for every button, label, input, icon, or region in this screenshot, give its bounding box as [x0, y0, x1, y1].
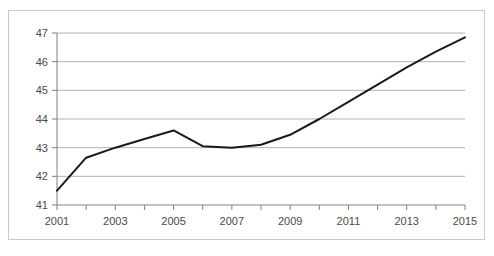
x-axis-tick-label: 2003: [103, 215, 127, 227]
x-axis-tick-label: 2009: [278, 215, 302, 227]
x-axis-ticks-group: [57, 205, 465, 210]
y-axis-tick-label: 44: [36, 113, 48, 125]
x-axis-tick-label: 2007: [220, 215, 244, 227]
gridlines-group: [57, 33, 465, 176]
line-chart: 41424344454647 2001200320052007200920112…: [0, 0, 494, 256]
y-axis-tick-label: 45: [36, 84, 48, 96]
x-axis-tick-label: 2011: [337, 215, 361, 227]
x-axis-tick-label: 2013: [394, 215, 418, 227]
y-axis-tick-label: 46: [36, 56, 48, 68]
y-axis-ticks-group: [52, 33, 57, 205]
y-axis-tick-label: 42: [36, 170, 48, 182]
x-axis-tick-label: 2001: [45, 215, 69, 227]
x-axis-labels-group: 20012003200520072009201120132015: [45, 215, 477, 227]
x-axis-tick-label: 2015: [453, 215, 477, 227]
y-axis-labels-group: 41424344454647: [36, 27, 48, 211]
y-axis-tick-label: 47: [36, 27, 48, 39]
y-axis-tick-label: 41: [36, 199, 48, 211]
x-axis-tick-label: 2005: [161, 215, 185, 227]
data-series-line: [57, 37, 465, 190]
chart-figure: 41424344454647 2001200320052007200920112…: [0, 0, 494, 256]
y-axis-tick-label: 43: [36, 142, 48, 154]
